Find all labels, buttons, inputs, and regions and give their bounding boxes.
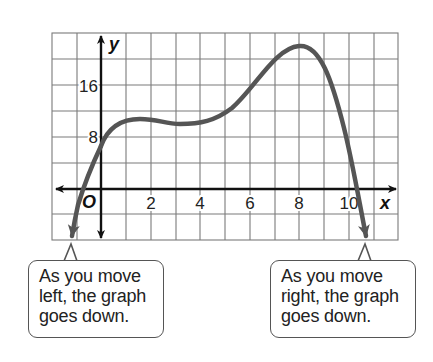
x-tick-label: 4 [195,194,204,213]
x-tick-label: 2 [146,194,155,213]
callout-line: goes down. [281,306,407,326]
callout-line: goes down. [39,306,155,326]
callout-pointers [64,244,371,261]
polynomial-curve-left [72,146,101,236]
x-tick-label: 10 [340,194,359,213]
left-callout: As you move left, the graph goes down. [28,260,164,338]
callout-line: As you move [281,266,407,286]
right-callout: As you move right, the graph goes down. [270,260,416,338]
y-axis-label: y [108,34,120,54]
callout-line: As you move [39,266,155,286]
x-tick-labels: 2 4 6 8 10 [146,194,358,213]
y-tick-label: 8 [89,128,98,147]
y-tick-label: 16 [79,77,98,96]
polynomial-curve [101,46,366,236]
x-tick-label: 8 [294,194,303,213]
origin-label: O [82,192,96,212]
callout-line: right, the graph [281,286,407,306]
x-axis-label: x [379,193,391,213]
callout-line: left, the graph [39,286,155,306]
x-tick-label: 6 [245,194,254,213]
